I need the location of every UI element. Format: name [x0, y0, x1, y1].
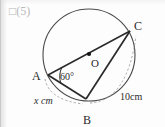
- geometry-figure: A B C O 60° x cm 10cm: [1, 0, 165, 127]
- vertex-label-c: C: [134, 19, 142, 33]
- figure-screenshot: □(5) A B C O 60° x cm 10cm: [0, 0, 165, 127]
- vertex-label-a: A: [32, 69, 41, 83]
- center-point-label: O: [91, 57, 99, 69]
- vertex-label-b: B: [83, 113, 91, 127]
- center-point-dot: [87, 52, 91, 56]
- angle-label-60: 60°: [60, 71, 74, 82]
- side-length-label-bc: 10cm: [120, 91, 142, 102]
- side-length-label-ab: x cm: [33, 95, 53, 106]
